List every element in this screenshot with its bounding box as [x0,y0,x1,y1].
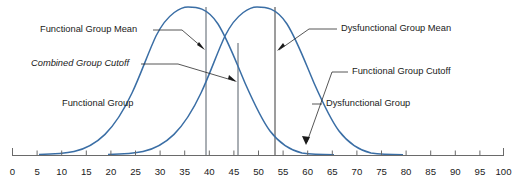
label-combined-group-cutoff: Combined Group Cutoff [31,59,129,68]
tick-label: 60 [302,167,313,177]
label-dysfunctional-group: Dysfunctional Group [326,99,410,108]
tick-label: 100 [495,167,511,177]
tick-label: 15 [81,167,92,177]
leader-dysfunctional-group-mean [279,29,337,50]
tick-label: 30 [155,167,166,177]
distribution-chart: Functional Group Mean Combined Group Cut… [0,0,515,191]
tick-label: 70 [352,167,363,177]
tick-label: 35 [179,167,190,177]
x-axis [12,148,504,156]
vertical-reference-lines [206,7,275,155]
tick-label: 40 [204,167,215,177]
tick-label: 95 [475,167,486,177]
tick-label: 50 [253,167,264,177]
leader-functional-group-mean [153,30,203,48]
label-functional-group-cutoff: Functional Group Cutoff [352,67,451,76]
annotation-leader-lines [141,29,348,142]
tick-label: 80 [401,167,412,177]
arrowhead-combined-group-cutoff [228,75,237,82]
tick-label: 65 [327,167,338,177]
x-axis-ticks [13,148,504,156]
tick-label: 55 [278,167,289,177]
annotation-arrowheads [197,42,310,145]
label-functional-group-mean: Functional Group Mean [40,25,137,34]
label-functional-group: Functional Group [62,99,133,108]
tick-label: 0 [10,167,15,177]
leader-combined-group-cutoff [141,64,235,81]
tick-label: 75 [376,167,387,177]
tick-label: 5 [34,167,39,177]
label-dysfunctional-group-mean: Dysfunctional Group Mean [341,24,451,33]
tick-label: 45 [229,167,240,177]
tick-label: 85 [425,167,436,177]
tick-label: 90 [450,167,461,177]
arrowhead-functional-group-cutoff [302,136,310,145]
tick-label: 20 [106,167,117,177]
tick-label: 10 [56,167,67,177]
arrowhead-functional-group-mean [197,42,205,50]
tick-label: 25 [130,167,141,177]
